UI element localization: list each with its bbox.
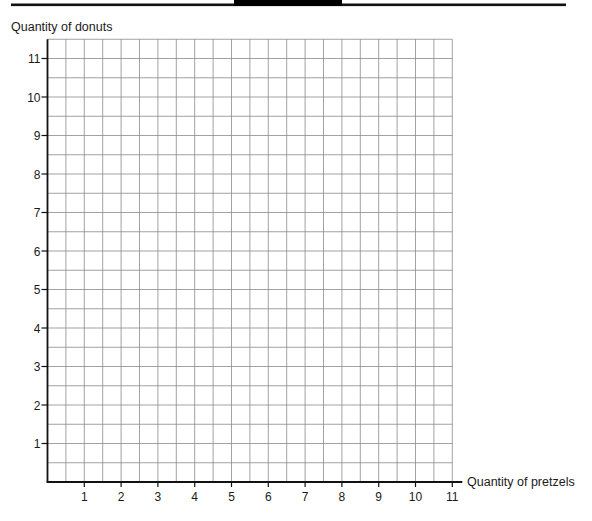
x-tick-label: 7 xyxy=(302,490,309,504)
y-axis-ticks: 1234567891011 xyxy=(27,52,47,451)
y-tick-label: 11 xyxy=(28,52,41,66)
y-tick-label: 10 xyxy=(27,91,41,105)
y-tick-label: 8 xyxy=(34,168,41,182)
x-tick-label: 5 xyxy=(228,490,235,504)
x-tick-label: 1 xyxy=(81,490,88,504)
header-block xyxy=(234,0,342,6)
x-tick-label: 4 xyxy=(191,490,198,504)
x-tick-label: 9 xyxy=(375,490,382,504)
y-tick-label: 4 xyxy=(34,322,41,336)
x-tick-label: 2 xyxy=(118,490,125,504)
blank-coordinate-grid: 1234567891011 1234567891011 Quantity of … xyxy=(0,0,592,521)
y-tick-label: 1 xyxy=(34,437,41,451)
x-tick-label: 3 xyxy=(155,490,162,504)
x-axis-ticks: 1234567891011 xyxy=(81,482,459,504)
y-tick-label: 7 xyxy=(34,206,41,220)
x-tick-label: 10 xyxy=(409,490,423,504)
grid-lines xyxy=(48,39,453,482)
x-axis-label: Quantity of pretzels xyxy=(467,475,575,489)
y-tick-label: 2 xyxy=(34,399,41,413)
x-tick-label: 8 xyxy=(339,490,346,504)
y-axis-label: Quantity of donuts xyxy=(11,20,112,34)
y-tick-label: 5 xyxy=(34,283,41,297)
x-tick-label: 11 xyxy=(446,490,459,504)
axes xyxy=(47,39,463,483)
y-tick-label: 6 xyxy=(34,245,41,259)
page-header-rule xyxy=(11,0,566,6)
x-tick-label: 6 xyxy=(265,490,272,504)
y-tick-label: 3 xyxy=(34,360,41,374)
y-tick-label: 9 xyxy=(34,129,41,143)
